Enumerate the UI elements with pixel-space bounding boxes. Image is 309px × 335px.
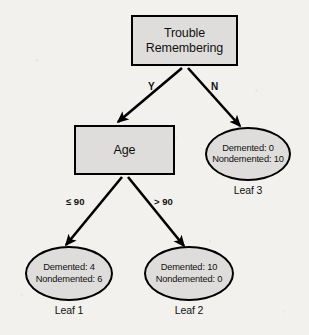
node-leaf1[interactable]: Demented: 4 Nondemented: 6 — [25, 246, 113, 301]
edge-root-to-leaf3 — [188, 68, 240, 126]
node-leaf1-caption: Leaf 1 — [25, 304, 113, 316]
decision-tree-diagram: Trouble Remembering Age Demented: 0 Nond… — [0, 0, 309, 335]
node-leaf1-nondemented: Nondemented: 6 — [36, 274, 103, 285]
node-leaf3-caption: Leaf 3 — [205, 184, 291, 196]
edge-label-no: N — [211, 81, 218, 92]
node-leaf3-nondemented: Nondemented: 10 — [212, 154, 284, 165]
node-trouble-remembering-line1: Trouble — [164, 26, 205, 40]
node-leaf2-nondemented: Nondemented: 0 — [156, 274, 223, 285]
node-leaf2[interactable]: Demented: 10 Nondemented: 0 — [144, 246, 234, 301]
node-leaf2-demented: Demented: 10 — [161, 262, 218, 273]
node-trouble-remembering-label: Trouble Remembering — [143, 26, 226, 56]
edge-root-to-age — [118, 68, 182, 122]
node-leaf3[interactable]: Demented: 0 Nondemented: 10 — [205, 127, 291, 181]
edge-label-age-le-90: ≤ 90 — [66, 196, 84, 207]
node-age-label: Age — [111, 143, 139, 158]
edge-label-age-gt-90: > 90 — [154, 196, 173, 207]
node-leaf2-caption: Leaf 2 — [144, 304, 234, 316]
edge-label-yes: Y — [148, 81, 155, 92]
node-trouble-remembering[interactable]: Trouble Remembering — [131, 15, 238, 66]
node-age[interactable]: Age — [74, 125, 175, 175]
node-trouble-remembering-line2: Remembering — [146, 41, 223, 55]
node-leaf3-demented: Demented: 0 — [222, 143, 274, 154]
edge-age-to-leaf1 — [66, 177, 122, 245]
edge-age-to-leaf2 — [128, 177, 184, 246]
node-leaf1-demented: Demented: 4 — [43, 262, 95, 273]
